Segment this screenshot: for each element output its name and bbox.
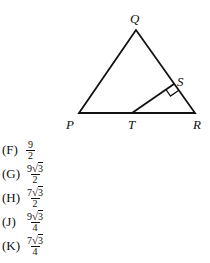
denominator: 2 [26,150,35,161]
radicand: 3 [38,162,43,174]
denominator: 4 [31,222,40,233]
numerator: 7√3 [26,187,44,198]
denominator: 4 [31,246,40,257]
numerator: 7√3 [26,235,44,246]
vertex-label-r: R [193,118,201,131]
fraction: 7√3 4 [26,235,44,257]
choice-letter: (H) [2,190,26,206]
denominator: 2 [31,198,40,209]
vertex-label-t: T [128,118,135,131]
fraction: 9√3 4 [26,211,44,233]
radicand: 3 [38,234,43,246]
vertex-label-s: S [177,75,184,88]
answer-choices: (F) 9 2 (G) 9√3 2 (H) 7√3 2 (J) 9√3 4 (K… [2,138,44,258]
choice-f[interactable]: (F) 9 2 [2,138,44,162]
radicand: 3 [38,186,43,198]
fraction: 9 2 [26,140,35,161]
choice-h[interactable]: (H) 7√3 2 [2,186,44,210]
choice-letter: (J) [2,214,26,230]
radicand: 3 [38,210,43,222]
vertex-label-q: Q [130,12,139,25]
choice-letter: (K) [2,238,26,254]
numerator: 9√3 [26,211,44,222]
choice-j[interactable]: (J) 9√3 4 [2,210,44,234]
fraction: 7√3 2 [26,187,44,209]
numerator: 9√3 [26,163,44,174]
choice-letter: (F) [2,142,26,158]
denominator: 2 [31,174,40,185]
triangle-figure: Q P R S T [0,0,210,140]
triangle-diagram [0,0,210,140]
vertex-label-p: P [66,118,74,131]
choice-letter: (G) [2,166,26,182]
choice-k[interactable]: (K) 7√3 4 [2,234,44,258]
numerator: 9 [27,140,34,150]
choice-g[interactable]: (G) 9√3 2 [2,162,44,186]
fraction: 9√3 2 [26,163,44,185]
